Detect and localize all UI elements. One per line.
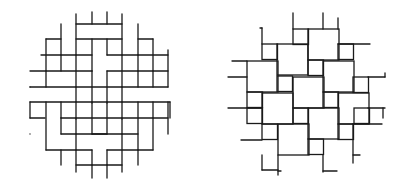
- basket-weave-pattern: [30, 12, 170, 178]
- large-square-tile: [277, 44, 308, 75]
- small-square-tile: [293, 108, 309, 124]
- figure-canvas: [0, 0, 402, 187]
- small-square-tile: [338, 124, 354, 140]
- small-square-tile: [354, 108, 370, 124]
- large-square-tile: [308, 108, 339, 139]
- small-square-tile: [308, 139, 324, 155]
- small-square-tile: [353, 77, 369, 93]
- small-square-tile: [247, 108, 263, 124]
- pinwheel-square-pattern: [228, 13, 385, 175]
- large-square-tile: [293, 77, 324, 108]
- small-square-tile: [338, 44, 354, 60]
- small-square-tile: [323, 92, 339, 108]
- small-square-tile: [247, 92, 263, 108]
- large-square-tile: [262, 93, 293, 124]
- large-square-tile: [278, 124, 309, 155]
- small-square-tile: [293, 29, 309, 45]
- small-square-tile: [262, 44, 278, 60]
- large-square-tile: [323, 61, 354, 92]
- small-square-tile: [277, 76, 293, 92]
- large-square-tile: [308, 29, 339, 60]
- large-square-tile: [247, 61, 278, 92]
- small-square-tile: [308, 60, 324, 76]
- small-square-tile: [262, 124, 278, 140]
